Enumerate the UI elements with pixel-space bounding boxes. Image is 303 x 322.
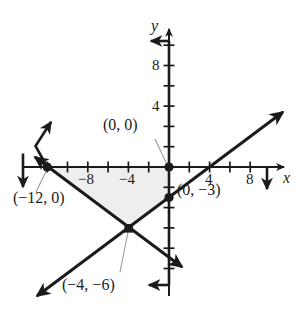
point-label-x-intercept: (−12, 0) — [13, 190, 65, 206]
point-origin — [164, 162, 173, 171]
solution-region-shading — [47, 167, 169, 228]
x-tick-label-neg8: −8 — [78, 172, 94, 187]
y-tick-label-pos8: 8 — [152, 58, 160, 73]
point-intersection — [124, 224, 133, 233]
x-tick-label-pos8: 8 — [246, 172, 254, 187]
leader-line-neg4-neg6 — [120, 230, 128, 272]
y-axis-label: y — [151, 18, 158, 34]
point-label-intersection: (−4, −6) — [62, 277, 115, 293]
leader-line-origin — [155, 139, 167, 165]
x-tick-label-neg4: −4 — [119, 172, 135, 187]
x-axis-label: x — [283, 170, 290, 186]
point-x-intercept — [43, 162, 52, 171]
point-y-intercept — [164, 193, 173, 202]
coordinate-plane-figure — [0, 0, 303, 322]
point-label-y-intercept: (0, −3) — [177, 182, 221, 198]
y-tick-label-pos4: 4 — [152, 99, 160, 114]
boundary-line-ascending — [37, 112, 283, 296]
point-label-origin: (0, 0) — [103, 117, 138, 133]
